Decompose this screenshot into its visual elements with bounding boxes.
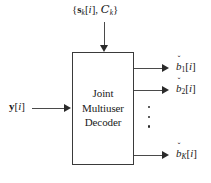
bracket-close: ] bbox=[21, 100, 25, 112]
ellipsis-dot bbox=[148, 106, 150, 108]
block-diagram-canvas: {sk[i], Ck} y[i] Joint Multiuser Decoder… bbox=[0, 0, 211, 183]
b-symbol: b bbox=[176, 83, 182, 94]
b-symbol: b bbox=[176, 148, 182, 159]
decoder-label-line-3: Decoder bbox=[72, 115, 134, 130]
output-1-arrowhead bbox=[162, 64, 169, 72]
left-input-connector-line bbox=[32, 108, 65, 109]
bracket-close: ] bbox=[192, 82, 196, 94]
ellipsis-dot bbox=[148, 125, 150, 127]
output-2-label: b2[i] bbox=[176, 83, 196, 95]
output-2-arrowhead bbox=[162, 86, 169, 94]
output-2-connector-line bbox=[134, 90, 163, 91]
decoder-label-line-2: Multiuser bbox=[72, 101, 134, 116]
left-input-label: y[i] bbox=[9, 101, 25, 112]
vertical-ellipsis bbox=[148, 106, 153, 135]
bracket-close: ] bbox=[192, 60, 196, 72]
top-input-arrowhead bbox=[100, 45, 108, 52]
top-input-connector-line bbox=[104, 22, 105, 46]
left-input-arrowhead bbox=[64, 104, 71, 112]
output-k-connector-line bbox=[134, 155, 163, 156]
output-k-label: bK[i] bbox=[176, 148, 197, 160]
c-symbol: C bbox=[101, 2, 110, 16]
output-k-arrowhead bbox=[162, 151, 169, 159]
b-symbol: b bbox=[176, 61, 182, 72]
output-1-label: b1[i] bbox=[176, 61, 196, 73]
bracket-close: ] bbox=[193, 147, 197, 159]
top-input-label: {sk[i], Ck} bbox=[72, 4, 118, 16]
brace-close: } bbox=[113, 3, 118, 15]
ellipsis-dot bbox=[148, 116, 150, 118]
output-1-connector-line bbox=[134, 68, 163, 69]
decoder-block-label: Joint Multiuser Decoder bbox=[72, 86, 134, 130]
decoder-label-line-1: Joint bbox=[72, 86, 134, 101]
